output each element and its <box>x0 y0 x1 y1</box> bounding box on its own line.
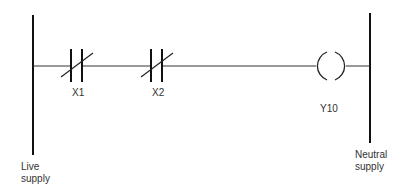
contact-x2-label: X2 <box>152 87 164 99</box>
coil-y10-label: Y10 <box>320 103 338 115</box>
ladder-diagram <box>0 0 409 191</box>
neutral-supply-label: Neutral supply <box>355 149 387 173</box>
contact-x1-label: X1 <box>72 87 84 99</box>
coil-y10 <box>317 52 344 80</box>
live-supply-label: Live supply <box>21 161 50 185</box>
